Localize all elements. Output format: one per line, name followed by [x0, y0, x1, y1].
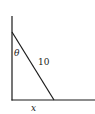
- angle-theta-label: θ: [14, 48, 20, 58]
- triangle-diagram: θ 10 x: [0, 0, 95, 114]
- base-x-label: x: [31, 103, 36, 113]
- hypotenuse-length-label: 10: [38, 57, 50, 67]
